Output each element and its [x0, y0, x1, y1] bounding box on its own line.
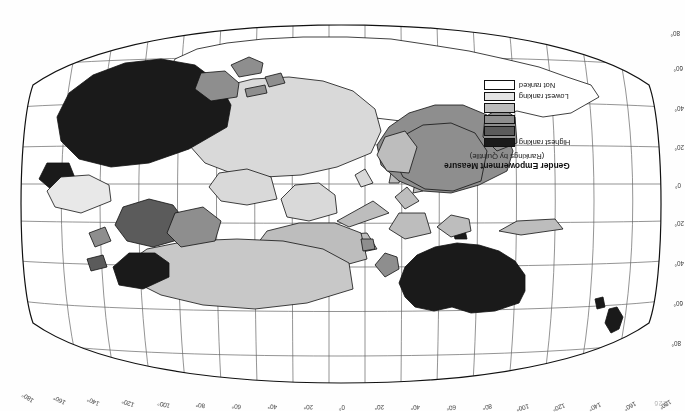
lat-tick-6: 40° [675, 105, 684, 112]
legend-item-q3 [393, 114, 605, 126]
lon-tick-1: 160° [623, 400, 638, 412]
map-legend: Gender Empowerment Measure (Rankings by … [393, 80, 605, 172]
legend-swatch-quintile-2 [484, 127, 515, 137]
lon-tick-12: 60° [231, 403, 241, 411]
lon-tick-7: 40° [410, 404, 420, 412]
lat-tick-8: 80° [671, 30, 680, 37]
legend-swatch-quintile-3 [484, 115, 515, 125]
legend-item-highest: Highest ranking [393, 137, 605, 149]
region-korea [361, 239, 375, 251]
legend-label-lowest: Lowest ranking [515, 92, 605, 101]
lon-tick-16: 140° [86, 396, 101, 408]
region-new-zealand-south [595, 297, 605, 309]
lon-tick-14: 100° [157, 400, 171, 410]
legend-label-highest: Highest ranking [515, 138, 605, 147]
world-map: 180° 160° 140° 120° 100° 80° 60° 40° 20°… [15, 19, 667, 389]
lon-tick-11: 40° [267, 403, 277, 411]
lat-tick-4: 0° [675, 182, 681, 189]
lon-tick-6: 60° [446, 404, 456, 412]
lat-tick-2: 40° [675, 260, 684, 267]
lon-tick-18: 180° [20, 392, 35, 405]
lon-tick-4: 100° [516, 403, 530, 413]
lon-tick-3: 120° [552, 402, 566, 413]
lon-tick-15: 120° [121, 398, 135, 409]
legend-title: Gender Empowerment Measure [419, 161, 595, 171]
legend-swatch-not-ranked [484, 81, 515, 91]
lon-tick-2: 140° [588, 401, 603, 413]
legend-item-lowest: Lowest ranking [393, 91, 605, 103]
legend-item-not-ranked: Not ranked [393, 80, 605, 92]
legend-swatch-quintile-5 [484, 92, 515, 102]
legend-subtitle: (Rankings by Quintile) [419, 152, 595, 162]
legend-item-q4 [393, 103, 605, 115]
lat-tick-7: 60° [674, 65, 683, 72]
legend-label-not-ranked: Not ranked [515, 81, 605, 90]
legend-item-q2 [393, 126, 605, 138]
lat-tick-5: 20° [675, 144, 684, 151]
lon-tick-17: 160° [52, 394, 67, 406]
map-graphic [15, 19, 667, 389]
lon-tick-13: 80° [195, 401, 205, 410]
lat-tick-3: 20° [675, 220, 684, 227]
lon-tick-8: 20° [375, 404, 385, 411]
lon-tick-9: 0° [339, 404, 345, 411]
legend-swatch-quintile-1 [484, 138, 515, 148]
lat-tick-1: 60° [674, 300, 683, 307]
legend-swatch-quintile-4 [484, 104, 515, 114]
lon-tick-5: 80° [482, 403, 492, 412]
lon-tick-10: 20° [304, 404, 314, 411]
lat-tick-0: 80° [672, 340, 681, 347]
